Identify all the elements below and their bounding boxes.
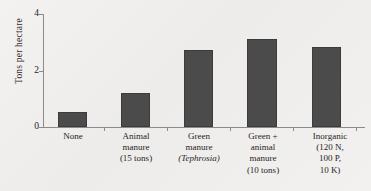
x-label-line: (15 tons) [105, 153, 167, 164]
y-tick-mark [39, 127, 44, 128]
x-axis-line [43, 127, 365, 128]
x-label-none: None [43, 131, 103, 142]
bar-none [58, 112, 87, 127]
x-label-line: (10 tons) [232, 165, 294, 176]
y-tick-label: 4 [34, 7, 39, 19]
bar-animal-manure [121, 93, 150, 127]
x-label-animal-manure: Animal manure (15 tons) [105, 131, 167, 165]
y-tick-mark [39, 14, 44, 15]
x-label-line: 10 K) [297, 165, 363, 176]
y-tick-mark [39, 71, 44, 72]
bar-green-plus-animal-manure [247, 39, 277, 127]
x-label-line: manure [168, 142, 230, 153]
y-tick-label: 0 [34, 120, 39, 132]
x-label-line: Inorganic [297, 131, 363, 142]
plot-area: 4 2 0 [43, 14, 365, 128]
bar-green-manure [184, 50, 213, 127]
x-label-line-species: (Tephrosia) [168, 153, 230, 164]
y-axis-label: Tons per hectare [14, 0, 24, 106]
x-label-green-manure: Green manure (Tephrosia) [168, 131, 230, 165]
x-label-line: Animal [105, 131, 167, 142]
x-axis-labels: None Animal manure (15 tons) Green manur… [43, 131, 365, 189]
bar-inorganic [312, 47, 341, 127]
x-label-line: manure [232, 153, 294, 164]
x-label-line: manure [105, 142, 167, 153]
x-label-line: 100 P, [297, 153, 363, 164]
x-label-line: Green [168, 131, 230, 142]
x-label-line: (120 N, [297, 142, 363, 153]
y-tick-label: 2 [34, 64, 39, 76]
x-label-line: animal [232, 142, 294, 153]
x-label-line: Green + [232, 131, 294, 142]
x-label-inorganic: Inorganic (120 N, 100 P, 10 K) [297, 131, 363, 176]
x-label-green-plus-animal-manure: Green + animal manure (10 tons) [232, 131, 294, 176]
x-label-line: None [43, 131, 103, 142]
bar-chart: Tons per hectare 4 2 0 None [0, 0, 371, 191]
